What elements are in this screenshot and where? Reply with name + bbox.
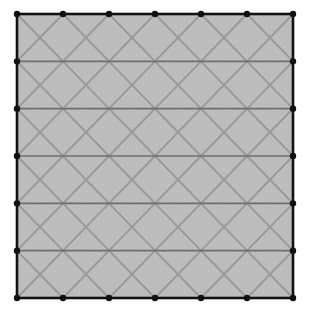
mesh-node (244, 295, 250, 301)
mesh-figure (0, 0, 311, 325)
mesh-node (152, 11, 158, 17)
mesh-node (198, 295, 204, 301)
mesh-node (290, 105, 296, 111)
mesh-node (290, 247, 296, 253)
mesh-node (14, 295, 20, 301)
mesh-node (14, 11, 20, 17)
mesh-node (106, 11, 112, 17)
mesh-node (198, 11, 204, 17)
mesh-node (290, 153, 296, 159)
mesh-node (290, 11, 296, 17)
mesh-node (244, 11, 250, 17)
mesh-node (290, 58, 296, 64)
mesh-node (14, 153, 20, 159)
mesh-node (60, 11, 66, 17)
mesh-node (290, 295, 296, 301)
mesh-canvas (0, 0, 311, 325)
mesh-node (14, 58, 20, 64)
mesh-node (14, 105, 20, 111)
mesh-node (14, 200, 20, 206)
mesh-node (106, 295, 112, 301)
mesh-node (14, 247, 20, 253)
mesh-node (152, 295, 158, 301)
mesh-node (60, 295, 66, 301)
mesh-node (290, 200, 296, 206)
